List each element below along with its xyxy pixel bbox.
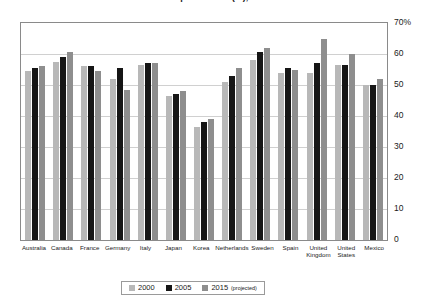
legend-item: 2005 <box>166 284 192 292</box>
legend-swatch <box>129 285 135 291</box>
x-axis-tick-label: UnitedStates <box>332 244 360 268</box>
x-axis-tick-label: Spain <box>277 244 305 268</box>
bar <box>180 91 186 240</box>
bar-group <box>359 23 387 240</box>
x-axis-tick-label: Korea <box>187 244 215 268</box>
bar <box>117 68 123 240</box>
bar <box>138 65 144 240</box>
y-axis: 70%6050403020100 <box>391 22 425 241</box>
bar <box>278 73 284 240</box>
y-axis-tick-label: 70% <box>394 18 411 27</box>
bar <box>292 70 298 241</box>
bar <box>32 68 38 240</box>
chart-legend: 200020052015(projected) <box>121 281 265 295</box>
legend-label: 2015 <box>211 284 228 292</box>
bar <box>166 96 172 240</box>
bar <box>236 68 242 240</box>
bar <box>342 65 348 240</box>
bar <box>95 71 101 240</box>
bar-groups <box>21 23 387 240</box>
legend-item: 2015(projected) <box>202 284 256 292</box>
x-axis-tick-label: Mexico <box>360 244 388 268</box>
bar-group <box>246 23 274 240</box>
bar <box>229 76 235 240</box>
x-axis-tick-label: Netherlands <box>215 244 248 268</box>
x-axis-tick-label: Sweden <box>249 244 277 268</box>
bar-chart-figure: Labour Force Participation Rate (%), Sel… <box>0 0 425 308</box>
bar-group <box>134 23 162 240</box>
bar <box>250 60 256 240</box>
x-axis-tick-label: UnitedKingdom <box>304 244 332 268</box>
bar <box>67 52 73 240</box>
bar <box>53 62 59 240</box>
bar-group <box>303 23 331 240</box>
bar <box>173 94 179 240</box>
bar <box>363 85 369 240</box>
y-axis-tick-label: 0 <box>394 235 399 244</box>
bar <box>25 71 31 240</box>
bar <box>257 52 263 240</box>
legend-label: 2005 <box>175 284 192 292</box>
legend-swatch <box>202 285 208 291</box>
bar <box>201 122 207 240</box>
bar <box>124 90 130 240</box>
x-axis-tick-label: France <box>76 244 104 268</box>
bar <box>208 119 214 240</box>
bar <box>377 79 383 240</box>
bar-group <box>190 23 218 240</box>
bar <box>88 66 94 240</box>
bar <box>81 66 87 240</box>
bar <box>39 66 45 240</box>
bar <box>285 68 291 240</box>
bar <box>321 39 327 241</box>
x-axis-tick-label: Germany <box>104 244 132 268</box>
legend-swatch <box>166 285 172 291</box>
chart-title: Labour Force Participation Rate (%), Sel… <box>0 0 425 2</box>
y-axis-tick-label: 30 <box>394 142 403 151</box>
bar-group <box>21 23 49 240</box>
bar <box>60 57 66 240</box>
bar <box>194 127 200 240</box>
bar <box>314 63 320 240</box>
legend-label: 2000 <box>138 284 155 292</box>
bar-group <box>77 23 105 240</box>
y-axis-tick-label: 10 <box>394 204 403 213</box>
x-axis-tick-label: Japan <box>159 244 187 268</box>
bar <box>307 73 313 240</box>
bar <box>335 65 341 240</box>
bar <box>145 63 151 240</box>
bar <box>222 82 228 240</box>
plot-area <box>20 22 388 241</box>
x-axis: AustraliaCanadaFranceGermanyItalyJapanKo… <box>20 244 388 268</box>
y-axis-tick-label: 60 <box>394 49 403 58</box>
bar-group <box>218 23 246 240</box>
x-axis-tick-label: Italy <box>132 244 160 268</box>
bar-group <box>105 23 133 240</box>
legend-note: (projected) <box>231 284 257 292</box>
bar-group <box>274 23 302 240</box>
x-axis-tick-label: Canada <box>48 244 76 268</box>
bar <box>370 85 376 240</box>
bar <box>152 63 158 240</box>
bar-group <box>331 23 359 240</box>
y-axis-tick-label: 20 <box>394 173 403 182</box>
bar <box>110 79 116 240</box>
x-axis-tick-label: Australia <box>20 244 48 268</box>
y-axis-tick-label: 40 <box>394 111 403 120</box>
legend-item: 2000 <box>129 284 155 292</box>
bar-group <box>49 23 77 240</box>
y-axis-tick-label: 50 <box>394 80 403 89</box>
bar <box>264 48 270 240</box>
bar <box>349 54 355 240</box>
bar-group <box>162 23 190 240</box>
